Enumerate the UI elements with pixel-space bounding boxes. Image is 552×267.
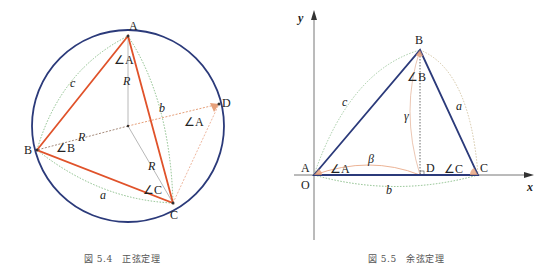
arc-gamma xyxy=(410,50,420,175)
center-point xyxy=(127,125,129,127)
label-gamma: γ xyxy=(404,109,409,123)
label-side-c: c xyxy=(70,76,76,90)
label-o: O xyxy=(301,178,310,192)
arc-b xyxy=(314,175,478,187)
label-b: B xyxy=(24,143,32,157)
label-c: C xyxy=(170,208,178,222)
label-radius-3: R xyxy=(147,159,156,173)
label-radius-1: R xyxy=(122,74,131,88)
label-side-c: c xyxy=(342,95,348,109)
label-angle-a: ∠A xyxy=(330,162,350,176)
x-axis-arrow-icon xyxy=(524,172,534,178)
label-d: D xyxy=(222,96,231,110)
label-side-b: b xyxy=(386,183,392,197)
label-d: D xyxy=(426,161,435,175)
label-x-axis: x xyxy=(526,180,533,194)
label-side-b: b xyxy=(159,101,165,115)
label-side-a: a xyxy=(456,99,462,113)
label-angle-a-at-d: ∠A xyxy=(184,115,204,129)
label-angle-b: ∠B xyxy=(56,141,75,155)
label-radius-2: R xyxy=(77,130,86,144)
label-angle-c: ∠C xyxy=(143,183,162,197)
label-a: A xyxy=(301,161,310,175)
label-y-axis: y xyxy=(296,11,304,25)
label-angle-b: ∠B xyxy=(407,70,426,84)
label-angle-a: ∠A xyxy=(114,53,134,67)
radius-od xyxy=(128,104,219,126)
label-side-a: a xyxy=(100,188,106,202)
label-a: A xyxy=(129,19,138,33)
caption-figure-5-5: 図 5.5 余弦定理 xyxy=(368,252,444,265)
caption-figure-5-4: 図 5.4 正弦定理 xyxy=(84,252,160,265)
sine-theorem-diagram: A B C D ∠A ∠B ∠C ∠A c b a R R R xyxy=(24,19,231,222)
label-angle-c: ∠C xyxy=(444,162,463,176)
cosine-theorem-diagram: y x B A O D C ∠B ∠A ∠C c a b β γ xyxy=(294,10,534,240)
label-c: C xyxy=(480,161,488,175)
y-axis-arrow-icon xyxy=(311,10,317,20)
label-b: B xyxy=(415,33,423,47)
label-beta: β xyxy=(367,152,374,166)
figures-canvas: A B C D ∠A ∠B ∠C ∠A c b a R R R y xyxy=(0,0,552,267)
triangle-abc xyxy=(314,50,478,175)
